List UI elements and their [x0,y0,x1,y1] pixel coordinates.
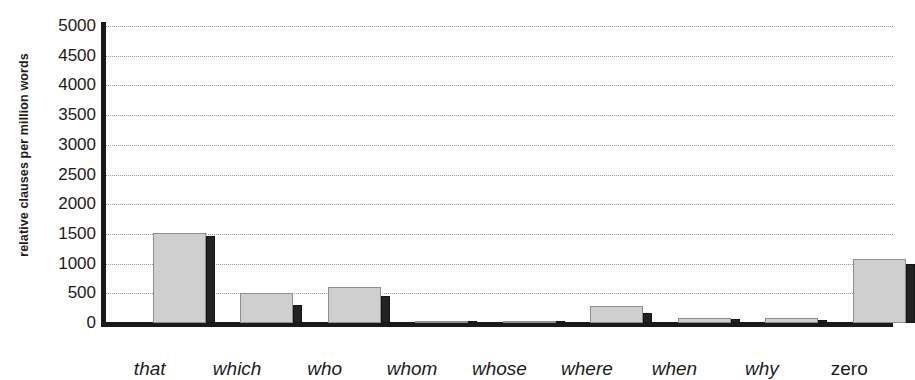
bar-dark [468,321,477,323]
bar-group [415,26,477,323]
y-tick-label: 1500 [32,225,96,242]
bar-light [590,306,643,323]
bar-group [590,26,652,323]
x-tick-label: which [193,358,280,380]
plot-area: 5000450040003500300025002000150010005000… [106,26,893,323]
y-tick-label: 1000 [32,255,96,272]
x-tick-label: that [106,358,193,380]
x-tick-label: zero [806,358,893,380]
x-tick-label: who [281,358,368,380]
x-tick-label: why [718,358,805,380]
bar-light [853,259,906,323]
y-tick-label: 2500 [32,166,96,183]
bar-light [153,233,206,323]
bar-dark [381,296,390,323]
bar-group [678,26,740,323]
y-tick-label: 0 [32,314,96,331]
bar-dark [906,264,915,323]
bar-light [415,321,468,323]
y-tick-label: 2000 [32,195,96,212]
y-axis-title: relative clauses per million words [17,0,31,315]
bar-group [853,26,915,323]
y-tick-label: 500 [32,284,96,301]
bar-light [765,318,818,323]
y-tick-label: 5000 [32,17,96,34]
bar-group [153,26,215,323]
x-tick-label: where [543,358,630,380]
bar-dark [556,321,565,323]
y-tick-label: 4000 [32,76,96,93]
bar-dark [818,320,827,323]
bar-dark [643,313,652,323]
bar-light [240,293,293,323]
bar-light [503,321,556,323]
x-tick-label: when [631,358,718,380]
bar-group [765,26,827,323]
y-tick-label: 3500 [32,106,96,123]
bar-light [678,318,731,323]
bar-dark [293,305,302,323]
bar-light [328,287,381,323]
bar-dark [206,236,215,323]
x-tick-label: whom [368,358,455,380]
bar-group [503,26,565,323]
x-tick-label: whose [456,358,543,380]
y-tick-label: 3000 [32,136,96,153]
bar-group [240,26,302,323]
bar-dark [731,319,740,323]
bar-group [328,26,390,323]
y-tick-label: 4500 [32,47,96,64]
